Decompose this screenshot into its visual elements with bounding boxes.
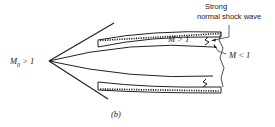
cowl-upper [98, 32, 221, 47]
normal-shock-label: normal shock wave [197, 13, 261, 21]
freestream-label: M0 > 1 [10, 57, 34, 68]
break-line [219, 32, 224, 87]
centerbody-lower [49, 61, 213, 77]
strong-label: Strong [205, 3, 227, 11]
subsonic-label: M < 1 [229, 51, 250, 60]
normal-shock-lower [203, 79, 207, 87]
cowl-lower [98, 82, 221, 93]
centerbody-upper [49, 45, 213, 61]
normal-shock-upper [205, 37, 209, 45]
oblique-shock-upper [49, 23, 114, 61]
leader-subsonic [215, 46, 226, 54]
caption: (b) [111, 110, 121, 119]
freestream-subscript: 0 [17, 62, 20, 68]
freestream-relation: > 1 [22, 56, 34, 66]
supersonic-label: M > 1 [168, 35, 189, 44]
